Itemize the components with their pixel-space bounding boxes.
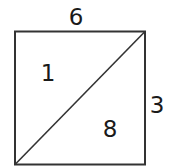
upper-triangle-label: 1 xyxy=(41,60,56,86)
right-label: 3 xyxy=(150,92,165,118)
diagram-canvas: 6 3 1 8 xyxy=(0,0,177,168)
top-label: 6 xyxy=(69,4,84,30)
diagonal-line xyxy=(15,32,145,165)
lower-triangle-label: 8 xyxy=(103,116,118,142)
